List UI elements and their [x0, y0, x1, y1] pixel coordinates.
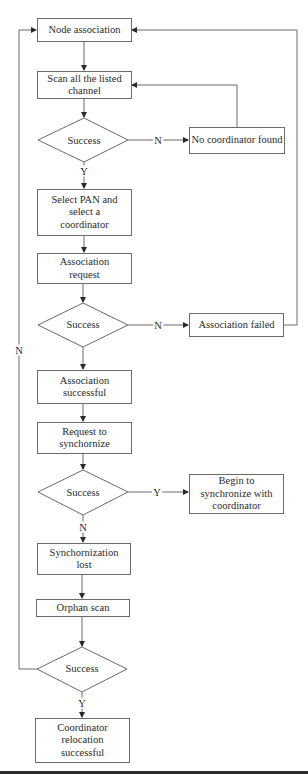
- edge-label-d3-yes: Y: [152, 487, 162, 498]
- node-label: Select PAN and select a coordinator: [46, 194, 123, 232]
- sync-lost-box: Synchornization lost: [37, 543, 131, 575]
- association-request-box: Association request: [37, 253, 132, 284]
- node-label: Association failed: [198, 319, 274, 332]
- scan-channels-box: Scan all the listed channel: [37, 71, 132, 99]
- edge-label-d1-yes: Y: [79, 166, 89, 177]
- node-label: Association successful: [52, 375, 117, 400]
- decision-3-label: Success: [66, 487, 99, 498]
- node-label: No coordinator found: [192, 134, 283, 147]
- no-coordinator-box: No coordinator found: [189, 127, 285, 154]
- edge-label-d3-no: N: [78, 522, 88, 533]
- node-label: Coordinator relocation successful: [54, 722, 111, 760]
- edge-label-d1-no: N: [153, 135, 163, 146]
- request-sync-box: Request to synchornize: [37, 422, 132, 454]
- begin-sync-box: Begin to synchronize with coordinator: [189, 474, 284, 514]
- node-label: Association request: [52, 256, 117, 281]
- node-association-box: Node association: [37, 18, 132, 42]
- coordinator-relocation-box: Coordinator relocation successful: [35, 718, 130, 763]
- decision-1-label: Success: [67, 135, 100, 146]
- association-failed-box: Association failed: [189, 313, 284, 337]
- node-label: Synchornization lost: [44, 547, 124, 572]
- node-label: Orphan scan: [57, 602, 110, 615]
- orphan-scan-box: Orphan scan: [36, 599, 130, 617]
- edge-label-d4-no: N: [14, 345, 24, 356]
- node-label: Request to synchornize: [48, 426, 121, 451]
- node-label: Begin to synchronize with coordinator: [194, 475, 279, 513]
- node-label: Node association: [48, 24, 120, 37]
- node-label: Scan all the listed channel: [38, 73, 131, 98]
- edge-label-d4-yes: Y: [77, 698, 87, 709]
- bottom-rule: [0, 771, 308, 774]
- decision-4-label: Success: [65, 663, 98, 674]
- edge-label-d2-no: N: [153, 320, 163, 331]
- decision-2-label: Success: [66, 319, 99, 330]
- association-successful-box: Association successful: [37, 370, 132, 404]
- select-pan-box: Select PAN and select a coordinator: [37, 189, 132, 236]
